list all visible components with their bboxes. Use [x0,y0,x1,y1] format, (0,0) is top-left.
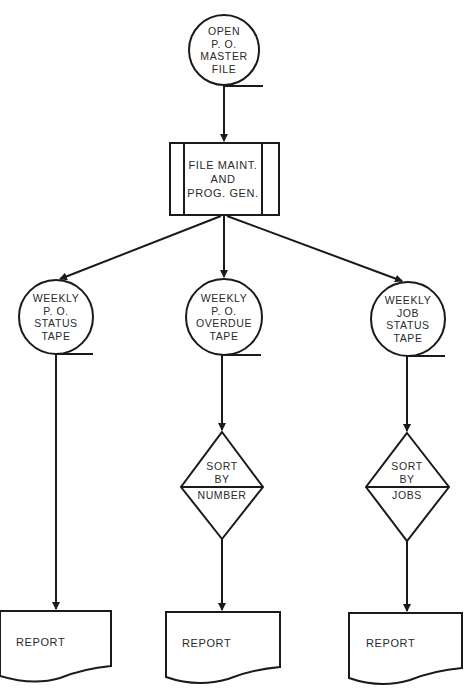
sort-jobs-top-label: SORT BY [391,460,422,485]
po-status-tape-label: WEEKLY P. O. STATUS TAPE [33,292,80,342]
po-overdue-tape-label: WEEKLY P. O. OVERDUE TAPE [196,292,252,342]
edge-maint-to-job-status [227,216,402,281]
sort-by-jobs-diamond [366,433,449,541]
file-maint-label: FILE MAINT. AND PROG. GEN. [187,158,258,200]
sort-jobs-bottom-label: JOBS [392,489,422,502]
report-1-label: REPORT [16,636,65,648]
flowchart-canvas [0,0,473,691]
job-status-tape-label: WEEKLY JOB STATUS TAPE [385,294,432,344]
master-file-label: OPEN P. O. MASTER FILE [200,25,247,75]
report-3-label: REPORT [366,637,415,649]
sort-number-top-label: SORT BY [206,460,237,485]
edge-maint-to-po-status [60,216,221,279]
sort-by-number-diamond [181,432,263,539]
report-2-label: REPORT [182,637,231,649]
sort-number-bottom-label: NUMBER [197,489,246,502]
